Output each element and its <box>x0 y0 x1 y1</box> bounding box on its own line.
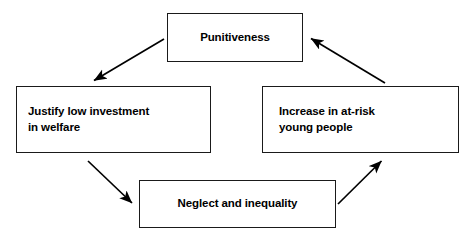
node-increase-at-risk-young-people-label: Increase in at-risk young people <box>279 104 375 134</box>
node-punitiveness-label: Punitiveness <box>200 30 270 45</box>
arrow-neglect-to-increase <box>338 161 382 204</box>
node-neglect-and-inequality-label: Neglect and inequality <box>178 196 298 211</box>
diagram-canvas: Punitiveness Justify low investment in w… <box>0 0 470 243</box>
node-neglect-and-inequality[interactable]: Neglect and inequality <box>139 180 336 228</box>
node-justify-low-investment[interactable]: Justify low investment in welfare <box>16 86 211 153</box>
node-increase-at-risk-young-people[interactable]: Increase in at-risk young people <box>262 86 459 153</box>
node-punitiveness[interactable]: Punitiveness <box>167 13 303 62</box>
arrow-punitiveness-to-justify <box>94 39 164 81</box>
arrow-increase-to-punitiveness <box>311 39 385 84</box>
arrow-justify-to-neglect <box>88 161 132 203</box>
node-justify-low-investment-label: Justify low investment in welfare <box>28 104 149 134</box>
